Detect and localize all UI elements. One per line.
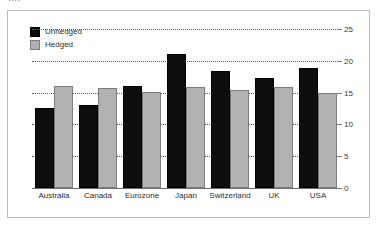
bar-switzerland-hedged[interactable] (230, 90, 249, 188)
bar-eurozone-unhedged[interactable] (123, 86, 142, 188)
x-axis-label-uk: UK (252, 191, 296, 200)
bar-group-switzerland (208, 29, 252, 188)
bar-canada-unhedged[interactable] (79, 105, 98, 188)
clipped-caption-text: .... (8, 0, 20, 3)
x-axis-label-japan: Japan (164, 191, 208, 200)
bar-usa-hedged[interactable] (318, 93, 337, 188)
x-axis-label-usa: USA (296, 191, 340, 200)
bar-group-australia (32, 29, 76, 188)
bar-group-canada (76, 29, 120, 188)
bar-group-usa (296, 29, 340, 188)
chart-plot-area: 0510152025 (32, 29, 340, 188)
bar-switzerland-unhedged[interactable] (211, 71, 230, 188)
y-tick-label-10: 10 (344, 120, 353, 129)
x-axis-label-australia: Australia (32, 191, 76, 200)
chart-figure-frame: Unhedged Hedged 0510152025 AustraliaCana… (7, 10, 370, 218)
bar-usa-unhedged[interactable] (299, 68, 318, 188)
y-tick-label-5: 5 (344, 152, 348, 161)
bar-japan-hedged[interactable] (186, 87, 205, 188)
bar-australia-unhedged[interactable] (35, 108, 54, 188)
bar-group-eurozone (120, 29, 164, 188)
clipped-caption: .... (8, 0, 208, 3)
y-tick-label-0: 0 (344, 184, 348, 193)
bar-eurozone-hedged[interactable] (142, 92, 161, 188)
x-axis-label-eurozone: Eurozone (120, 191, 164, 200)
bar-canada-hedged[interactable] (98, 88, 117, 188)
bar-australia-hedged[interactable] (54, 86, 73, 188)
bar-uk-hedged[interactable] (274, 87, 293, 188)
bar-japan-unhedged[interactable] (167, 54, 186, 188)
y-tick-label-20: 20 (344, 56, 353, 65)
y-tick-label-25: 25 (344, 25, 353, 34)
gridline-0 (32, 188, 340, 189)
y-tick-mark-0 (337, 188, 342, 189)
x-axis-label-switzerland: Switzerland (208, 191, 252, 200)
bar-uk-unhedged[interactable] (255, 78, 274, 188)
chart-bars (32, 29, 340, 188)
y-tick-label-15: 15 (344, 88, 353, 97)
x-axis-label-canada: Canada (76, 191, 120, 200)
bar-group-uk (252, 29, 296, 188)
bar-group-japan (164, 29, 208, 188)
chart-x-axis-labels: AustraliaCanadaEurozoneJapanSwitzerlandU… (32, 191, 340, 200)
